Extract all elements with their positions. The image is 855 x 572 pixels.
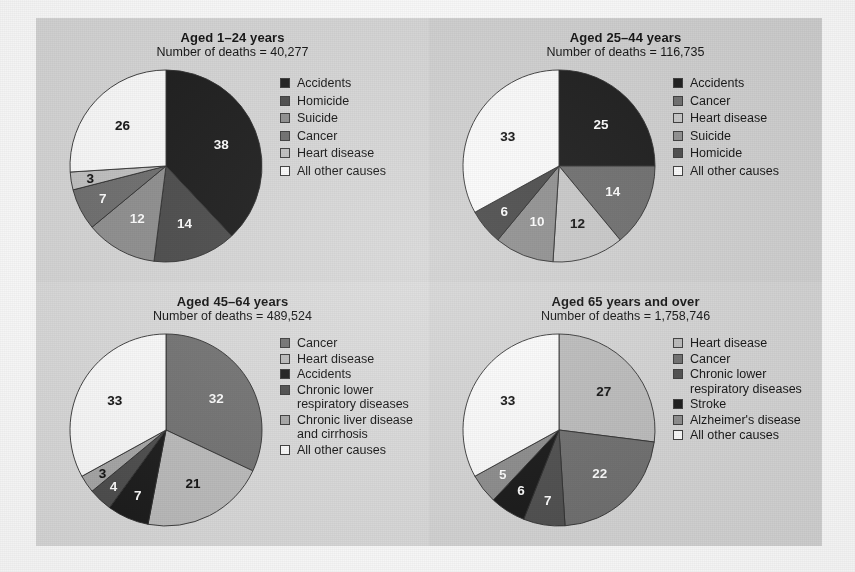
chart-panel-aged-1-24: Aged 1–24 years Number of deaths = 40,27… (36, 18, 429, 282)
chart-title-block: Aged 65 years and over Number of deaths … (429, 294, 822, 324)
figure-four-pie-charts: Aged 1–24 years Number of deaths = 40,27… (0, 0, 855, 572)
pie-slice-value: 32 (209, 391, 224, 406)
legend-item[interactable]: Cancer (673, 94, 822, 109)
chart-title: Aged 25–44 years (429, 30, 822, 45)
legend-item[interactable]: Heart disease (280, 146, 429, 161)
chart-legend: CancerHeart diseaseAccidentsChronic lowe… (280, 336, 429, 457)
legend-item[interactable]: All other causes (280, 164, 429, 179)
legend-item[interactable]: Heart disease (280, 352, 429, 367)
chart-title: Aged 65 years and over (429, 294, 822, 309)
chart-body: 272276533 Heart diseaseCancerChronic low… (429, 328, 822, 542)
legend-swatch-icon (673, 430, 683, 440)
legend-label: Homicide (690, 146, 742, 161)
legend-swatch-icon (280, 113, 290, 123)
legend-item[interactable]: Accidents (280, 76, 429, 91)
legend-label: Accidents (297, 76, 351, 91)
chart-body: 25141210633 AccidentsCancerHeart disease… (429, 64, 822, 278)
legend-item[interactable]: Stroke (673, 397, 822, 412)
legend-item[interactable]: Suicide (673, 129, 822, 144)
pie-slice-value: 21 (186, 476, 201, 491)
legend-label: Heart disease (297, 352, 374, 367)
pie-slice-value: 6 (517, 482, 525, 497)
legend-item[interactable]: Homicide (673, 146, 822, 161)
legend-item[interactable]: Heart disease (673, 111, 822, 126)
chart-title-block: Aged 45–64 years Number of deaths = 489,… (36, 294, 429, 324)
legend-label: Cancer (690, 94, 730, 109)
chart-subtitle: Number of deaths = 1,758,746 (429, 309, 822, 324)
chart-panel-aged-45-64: Aged 45–64 years Number of deaths = 489,… (36, 282, 429, 546)
legend-item[interactable]: Cancer (280, 336, 429, 351)
pie-slice-value: 14 (177, 215, 192, 230)
pie-slice-value: 7 (544, 493, 552, 508)
pie-slice-value: 26 (115, 118, 130, 133)
legend-swatch-icon (673, 415, 683, 425)
legend-item[interactable]: All other causes (673, 428, 822, 443)
legend-label: All other causes (297, 164, 386, 179)
legend-item[interactable]: Suicide (280, 111, 429, 126)
legend-label: Homicide (297, 94, 349, 109)
legend-item[interactable]: All other causes (673, 164, 822, 179)
legend-item[interactable]: Accidents (280, 367, 429, 382)
pie-slice-value: 7 (134, 488, 142, 503)
chart-subtitle: Number of deaths = 40,277 (36, 45, 429, 60)
legend-label: Suicide (297, 111, 338, 126)
legend-item[interactable]: Heart disease (673, 336, 822, 351)
pie-slice-value: 7 (99, 191, 107, 206)
pie-chart: 3814127326 (66, 66, 266, 266)
legend-swatch-icon (673, 113, 683, 123)
pie-slices (66, 330, 266, 530)
legend-item[interactable]: All other causes (280, 443, 429, 458)
chart-title-block: Aged 25–44 years Number of deaths = 116,… (429, 30, 822, 60)
legend-swatch-icon (673, 78, 683, 88)
legend-swatch-icon (280, 131, 290, 141)
legend-label: Chronic liver disease and cirrhosis (297, 413, 413, 442)
pie-slice-value: 22 (592, 466, 607, 481)
chart-title: Aged 1–24 years (36, 30, 429, 45)
pie-slices (459, 66, 659, 266)
legend-item[interactable]: Alzheimer's disease (673, 413, 822, 428)
legend-label: Accidents (690, 76, 744, 91)
legend-item[interactable]: Homicide (280, 94, 429, 109)
legend-swatch-icon (280, 96, 290, 106)
legend-swatch-icon (280, 369, 290, 379)
pie-slice-value: 14 (605, 184, 620, 199)
legend-swatch-icon (673, 369, 683, 379)
chart-subtitle: Number of deaths = 489,524 (36, 309, 429, 324)
pie-slice-value: 12 (570, 215, 585, 230)
chart-body: 3814127326 AccidentsHomicideSuicideCance… (36, 64, 429, 278)
chart-legend: Heart diseaseCancerChronic lower respira… (673, 336, 822, 443)
legend-label: Heart disease (690, 336, 767, 351)
pie-slice-value: 10 (530, 214, 545, 229)
legend-item[interactable]: Chronic liver disease and cirrhosis (280, 413, 429, 442)
legend-swatch-icon (280, 148, 290, 158)
legend-label: Alzheimer's disease (690, 413, 801, 428)
chart-legend: AccidentsCancerHeart diseaseSuicideHomic… (673, 76, 822, 178)
pie-slice-value: 33 (500, 392, 515, 407)
legend-label: Cancer (297, 336, 337, 351)
chart-subtitle: Number of deaths = 116,735 (429, 45, 822, 60)
chart-grid-plate: Aged 1–24 years Number of deaths = 40,27… (36, 18, 822, 546)
pie-slice-value: 33 (107, 392, 122, 407)
pie-slice-value: 38 (214, 137, 229, 152)
pie-slice-value: 3 (99, 466, 107, 481)
legend-item[interactable]: Accidents (673, 76, 822, 91)
legend-label: Cancer (297, 129, 337, 144)
legend-item[interactable]: Cancer (280, 129, 429, 144)
legend-swatch-icon (280, 338, 290, 348)
legend-label: All other causes (297, 443, 386, 458)
pie-slice-value: 6 (500, 204, 508, 219)
legend-label: Accidents (297, 367, 351, 382)
chart-legend: AccidentsHomicideSuicideCancerHeart dise… (280, 76, 429, 178)
legend-item[interactable]: Cancer (673, 352, 822, 367)
pie-chart: 25141210633 (459, 66, 659, 266)
chart-title-block: Aged 1–24 years Number of deaths = 40,27… (36, 30, 429, 60)
chart-panel-aged-25-44: Aged 25–44 years Number of deaths = 116,… (429, 18, 822, 282)
pie-slice-value: 4 (110, 478, 118, 493)
legend-item[interactable]: Chronic lower respiratory diseases (673, 367, 822, 396)
pie-chart: 272276533 (459, 330, 659, 530)
legend-swatch-icon (280, 354, 290, 364)
legend-label: Chronic lower respiratory diseases (297, 383, 409, 412)
legend-item[interactable]: Chronic lower respiratory diseases (280, 383, 429, 412)
pie-slice-value: 25 (594, 116, 609, 131)
legend-label: Chronic lower respiratory diseases (690, 367, 802, 396)
